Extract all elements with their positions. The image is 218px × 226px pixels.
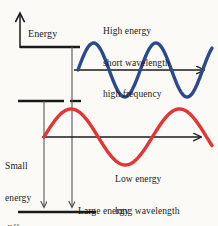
high-energy-caption-line2: short wavelength [103, 58, 170, 69]
transition-arrows [44, 47, 72, 207]
high-energy-caption: High energy short wavelength high freque… [103, 5, 170, 121]
small-energy-difference-caption: Small energy differ- ence [5, 140, 31, 226]
high-energy-caption-line3: high frequency [103, 89, 170, 100]
energy-wavelength-diagram: Energy High energy short wavelength high… [0, 0, 218, 226]
small-energy-caption-line2: energy [5, 193, 31, 204]
low-energy-caption-line1: Low energy [115, 174, 180, 185]
energy-axis-label: Energy [28, 8, 57, 61]
small-energy-caption-line1: Small [5, 161, 31, 172]
high-energy-caption-line1: High energy [103, 26, 170, 37]
energy-axis-label-text: Energy [28, 29, 57, 40]
low-energy-caption: Low energy long wavelength low frequency [115, 153, 180, 226]
small-energy-caption-line3: differ- [5, 224, 31, 226]
low-energy-caption-line2: long wavelength [115, 206, 180, 217]
